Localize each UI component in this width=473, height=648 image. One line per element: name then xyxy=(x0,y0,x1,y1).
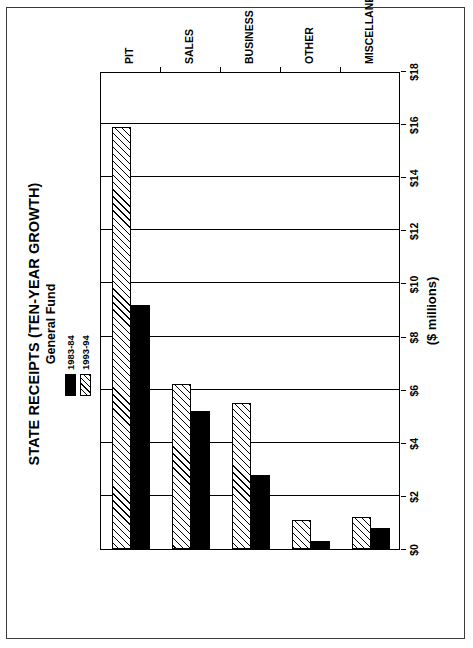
plot-area xyxy=(100,72,400,550)
bar-sales-1983-84 xyxy=(191,411,210,549)
bar-other-1983-84 xyxy=(311,541,330,549)
axis-tick xyxy=(401,124,406,125)
axis-tick xyxy=(401,390,406,391)
axis-tick xyxy=(401,549,406,550)
axis-tick xyxy=(401,496,406,497)
chart-subtitle: General Fund xyxy=(44,24,58,624)
chart-legend: 1983-841993-94 xyxy=(64,335,92,396)
chart-page: STATE RECEIPTS (TEN-YEAR GROWTH) General… xyxy=(0,0,473,648)
bar-sales-1993-94 xyxy=(172,384,191,549)
bar-pit-1993-94 xyxy=(112,127,131,549)
axis-tick-label: $0 xyxy=(408,544,420,556)
category-label-pit: PIT xyxy=(123,48,135,64)
axis-tick-label: $8 xyxy=(408,332,420,344)
category-tick xyxy=(160,67,161,72)
axis-tick-label: $14 xyxy=(408,169,420,187)
chart-title: STATE RECEIPTS (TEN-YEAR GROWTH) xyxy=(26,24,42,624)
title-block: STATE RECEIPTS (TEN-YEAR GROWTH) General… xyxy=(26,24,58,624)
legend-item: 1983-84 xyxy=(64,335,77,396)
category-label-other: OTHER xyxy=(303,27,315,64)
bars-layer xyxy=(101,73,399,549)
axis-tick xyxy=(401,337,406,338)
figure-rotation-wrapper: STATE RECEIPTS (TEN-YEAR GROWTH) General… xyxy=(22,24,452,624)
category-tick xyxy=(340,67,341,72)
legend-swatch-solid xyxy=(65,374,76,396)
axis-tick-label: $10 xyxy=(408,276,420,294)
bar-other-1993-94 xyxy=(292,520,311,549)
bar-group xyxy=(281,73,341,549)
bar-group xyxy=(161,73,221,549)
axis-tick xyxy=(401,283,406,284)
category-label-miscellaneous: MISCELLANEOUS xyxy=(363,0,375,64)
category-label-business: BUSINESS xyxy=(243,10,255,64)
value-axis-title: ($ millions) xyxy=(424,72,439,550)
bar-group xyxy=(341,73,401,549)
axis-tick-label: $12 xyxy=(408,223,420,241)
bar-group xyxy=(221,73,281,549)
bar-pit-1983-84 xyxy=(131,305,150,549)
axis-tick xyxy=(401,443,406,444)
axis-tick-label: $4 xyxy=(408,438,420,450)
axis-tick-label: $6 xyxy=(408,385,420,397)
chart-figure: STATE RECEIPTS (TEN-YEAR GROWTH) General… xyxy=(22,24,452,624)
legend-label: 1983-84 xyxy=(65,335,76,370)
axis-tick-label: $18 xyxy=(408,63,420,81)
bar-business-1993-94 xyxy=(232,403,251,549)
bar-miscellaneous-1983-84 xyxy=(371,528,390,549)
legend-swatch-hatched xyxy=(80,374,91,396)
bar-miscellaneous-1993-94 xyxy=(352,517,371,549)
category-tick xyxy=(220,67,221,72)
category-tick xyxy=(280,67,281,72)
axis-tick-label: $16 xyxy=(408,116,420,134)
category-label-sales: SALES xyxy=(183,29,195,64)
axis-tick xyxy=(401,71,406,72)
legend-item: 1993-94 xyxy=(79,335,92,396)
axis-tick-label: $2 xyxy=(408,491,420,503)
axis-tick xyxy=(401,177,406,178)
legend-label: 1993-94 xyxy=(80,335,91,370)
bar-business-1983-84 xyxy=(251,475,270,549)
bar-group xyxy=(101,73,161,549)
category-axis: PITSALESBUSINESSOTHERMISCELLANEOUS xyxy=(100,26,400,72)
axis-tick xyxy=(401,230,406,231)
